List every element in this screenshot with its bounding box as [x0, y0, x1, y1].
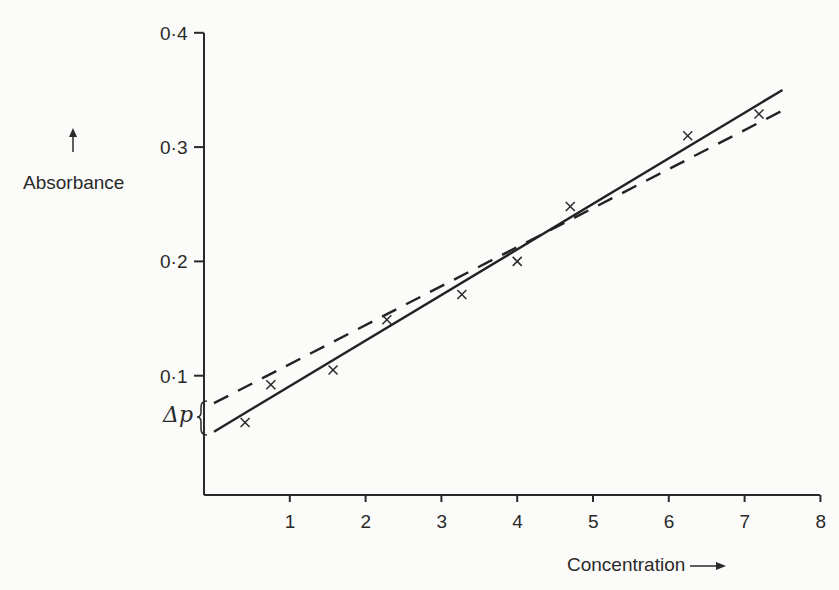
y-label-text: Absorbance [23, 172, 124, 193]
x-axis-label: Concentration [567, 554, 726, 575]
data-point-x-marker [566, 202, 575, 211]
y-axis-label: Absorbance [23, 128, 124, 193]
right-arrow-head-icon [716, 562, 726, 570]
brace-icon [197, 401, 207, 435]
y-tick-label: 0·3 [160, 137, 187, 158]
data-point-x-marker [329, 365, 338, 374]
x-tick-label: 2 [361, 511, 372, 532]
delta-p-label: Δp [162, 402, 193, 427]
y-tick-label: 0·1 [160, 366, 187, 387]
x-tick-label: 4 [512, 511, 523, 532]
data-point-x-marker [457, 290, 466, 299]
dashed-fit-line [214, 108, 787, 403]
fit-lines [214, 90, 787, 432]
data-point-x-marker [683, 131, 692, 140]
data-point-x-marker [755, 109, 764, 118]
data-point-x-marker [241, 418, 250, 427]
x-tick-label: 6 [664, 511, 675, 532]
x-tick-label: 7 [740, 511, 751, 532]
solid-fit-line [214, 90, 783, 432]
x-tick-label: 8 [815, 511, 826, 532]
y-ticks: 0·10·20·30·4 [160, 23, 204, 387]
x-ticks: 12345678 [285, 495, 826, 532]
up-arrow-head-icon [69, 128, 77, 137]
data-point-x-marker [513, 257, 522, 266]
data-point-x-marker [266, 380, 275, 389]
x-tick-label: 3 [436, 511, 447, 532]
x-tick-label: 5 [588, 511, 599, 532]
x-tick-label: 1 [285, 511, 296, 532]
y-tick-label: 0·2 [160, 251, 187, 272]
x-label-text: Concentration [567, 554, 685, 575]
y-tick-label: 0·4 [160, 23, 188, 44]
chart: 0·10·20·30·4 12345678 Absorbance Concent… [0, 0, 839, 590]
delta-p-annotation: Δp [162, 401, 207, 435]
data-points [241, 109, 764, 427]
data-point-x-marker [382, 315, 391, 324]
